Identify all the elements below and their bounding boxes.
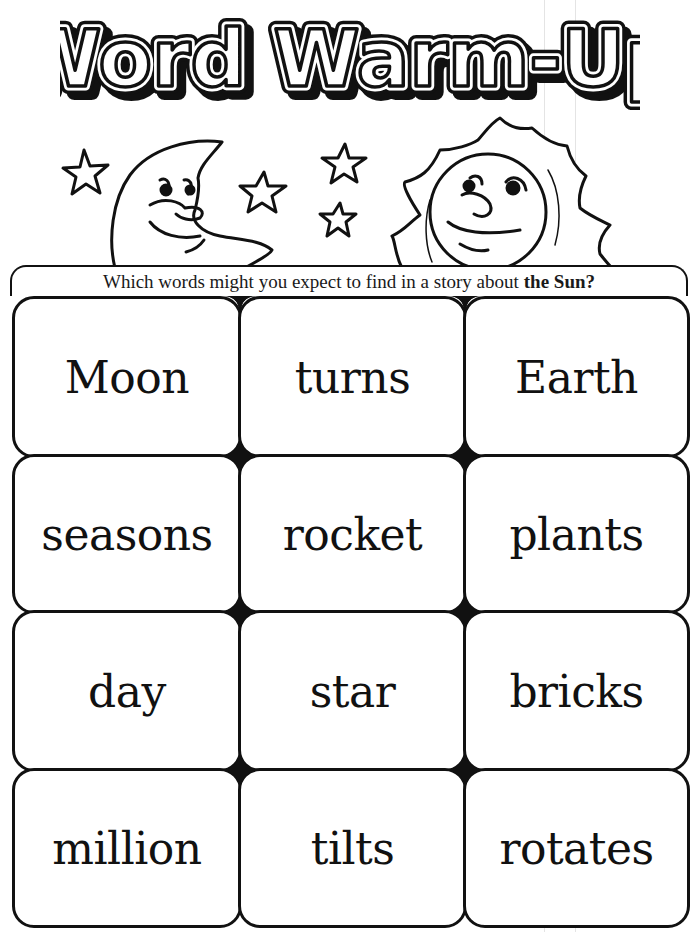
question-mark: ? [586,271,596,293]
word-label: turns [295,352,410,403]
word-label: seasons [41,509,212,560]
question-text: Which words might you expect to find in … [103,271,519,293]
word-grid: Moon turns Earth seasons rocket plants d… [12,296,690,928]
word-label: star [310,666,396,717]
word-label: Earth [515,352,638,403]
word-label: Moon [65,352,189,403]
word-label: day [88,666,166,717]
sun-icon [392,118,612,268]
word-card[interactable]: Earth [463,296,690,458]
question-prompt: Which words might you expect to find in … [10,265,688,296]
word-card[interactable]: day [12,610,242,772]
worksheet-title: Word Warm-Up Word Warm-Up Word Warm-Up W… [60,6,640,110]
illustration [0,108,699,268]
question-topic: the Sun [524,271,586,293]
word-label: rocket [283,509,423,560]
word-card[interactable]: million [12,768,242,928]
star-icon [63,150,108,194]
word-label: million [52,823,201,874]
word-card[interactable]: rotates [463,768,690,928]
star-icon [320,203,356,236]
moon-icon [112,141,272,268]
word-label: plants [509,509,643,560]
star-icon [240,172,286,212]
word-label: tilts [311,823,395,874]
star-icon [322,144,366,183]
title-text: Word Warm-Up [60,14,640,104]
word-card[interactable]: tilts [238,768,467,928]
word-card[interactable]: plants [463,454,690,614]
word-card[interactable]: star [238,610,467,772]
word-card[interactable]: rocket [238,454,467,614]
word-label: bricks [509,666,643,717]
word-card[interactable]: Moon [12,296,242,458]
word-label: rotates [499,823,653,874]
word-card[interactable]: seasons [12,454,242,614]
word-card[interactable]: bricks [463,610,690,772]
word-card[interactable]: turns [238,296,467,458]
